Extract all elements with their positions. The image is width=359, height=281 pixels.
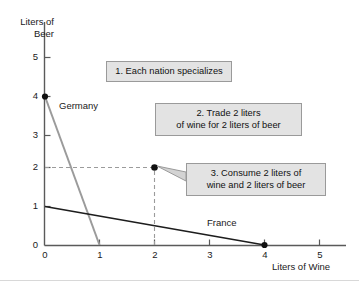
consumption-point-marker xyxy=(151,164,158,171)
x-tick-label-4: 4 xyxy=(258,249,272,260)
annotation-box-specializes: 1. Each nation specializes xyxy=(106,61,232,82)
x-tick-label-0: 0 xyxy=(38,249,52,260)
germany-series-label: Germany xyxy=(59,100,98,111)
x-tick-label-2: 2 xyxy=(148,249,162,260)
germany-endpoint-marker xyxy=(42,93,48,99)
y-tick-label-5: 5 xyxy=(24,51,38,62)
x-tick-label-1: 1 xyxy=(93,249,107,260)
x-tick-label-5: 5 xyxy=(313,249,327,260)
y-tick-label-3: 3 xyxy=(24,129,38,140)
annotation-box-consume: 3. Consume 2 liters of wine and 2 liters… xyxy=(186,163,326,196)
france-endpoint-marker xyxy=(261,242,267,248)
callout-3-tail xyxy=(157,166,186,181)
germany-ppf-line xyxy=(45,97,100,246)
y-tick-label-0: 0 xyxy=(24,239,38,250)
y-tick-label-1: 1 xyxy=(24,200,38,211)
y-tick-label-4: 4 xyxy=(24,90,38,101)
y-tick-label-2: 2 xyxy=(24,161,38,172)
france-series-label: France xyxy=(207,217,237,228)
x-tick-label-3: 3 xyxy=(203,249,217,260)
annotation-box-trade: 2. Trade 2 liters of wine for 2 liters o… xyxy=(155,103,302,136)
ppf-chart-figure: Liters of Beer Liters of Wine 5 4 3 2 1 … xyxy=(0,0,359,281)
x-axis-title: Liters of Wine xyxy=(272,261,330,273)
y-axis-title: Liters of Beer xyxy=(2,16,54,39)
plot-area xyxy=(0,0,359,281)
